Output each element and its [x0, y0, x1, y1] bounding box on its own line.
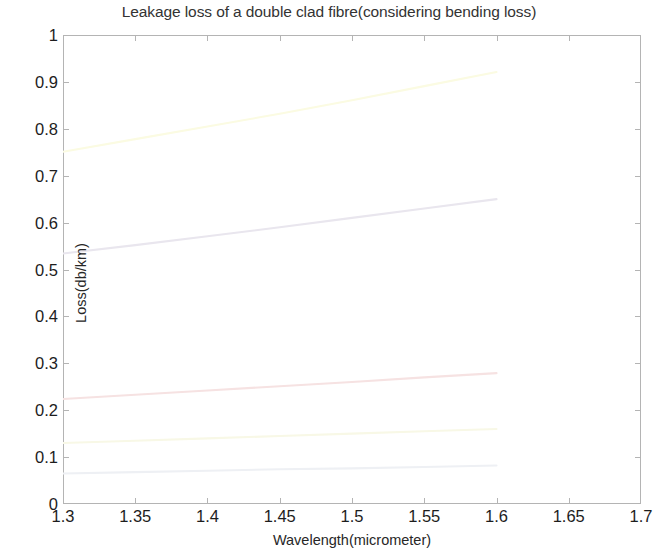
y-axis-tick-labels: 00.10.20.30.40.50.60.70.80.91: [0, 35, 58, 504]
y-tick-label: 0.9: [6, 74, 58, 91]
y-tick-label: 0.5: [6, 261, 58, 278]
chart-figure: Leakage loss of a double clad fibre(cons…: [0, 0, 658, 553]
y-axis-title: Loss(db/km): [73, 193, 89, 373]
x-tick-label: 1.45: [264, 508, 296, 525]
plot-area: Loss(db/km): [63, 35, 641, 504]
y-tick-label: 0.1: [6, 449, 58, 466]
data-series-line-1: [63, 72, 497, 152]
x-tick-label: 1.55: [408, 508, 440, 525]
x-tick-label: 1.5: [341, 508, 364, 525]
x-tick-label: 1.3: [52, 508, 75, 525]
data-series-line-4: [63, 429, 497, 443]
y-tick-label: 0.8: [6, 121, 58, 138]
y-tick-label: 0.4: [6, 308, 58, 325]
data-series-line-5: [63, 466, 497, 474]
y-tick-label: 0.6: [6, 214, 58, 231]
plot-canvas: [63, 35, 641, 504]
y-tick-label: 0.7: [6, 167, 58, 184]
y-tick-label: 0: [6, 496, 58, 513]
y-tick-label: 0.2: [6, 402, 58, 419]
x-tick-label: 1.7: [630, 508, 653, 525]
x-axis-title: Wavelength(micrometer): [63, 532, 641, 548]
data-series-line-2: [63, 199, 497, 253]
x-axis-tick-labels: 1.31.351.41.451.51.551.61.651.7: [63, 508, 641, 532]
data-series-line-3: [63, 373, 497, 399]
x-tick-label: 1.65: [553, 508, 585, 525]
y-tick-label: 0.3: [6, 355, 58, 372]
x-tick-label: 1.4: [196, 508, 219, 525]
x-tick-label: 1.35: [119, 508, 151, 525]
chart-title: Leakage loss of a double clad fibre(cons…: [0, 3, 658, 21]
x-tick-label: 1.6: [485, 508, 508, 525]
y-tick-label: 1: [6, 27, 58, 44]
